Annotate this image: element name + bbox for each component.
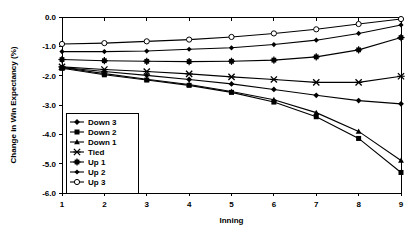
y-tick-label: -5.0 — [42, 160, 56, 169]
win-expectancy-chart: 0.0-1.0-2.0-3.0-4.0-5.0-6.0123456789 Dow… — [0, 0, 417, 240]
x-tick-label: 3 — [145, 200, 150, 209]
x-tick-label: 8 — [356, 200, 361, 209]
y-tick-label: -2.0 — [42, 72, 56, 81]
series-marker — [271, 31, 276, 36]
series-marker — [229, 34, 234, 39]
series-marker — [187, 47, 192, 52]
series-marker — [102, 41, 107, 46]
y-tick-label: -4.0 — [42, 130, 56, 139]
y-tick-label: 0.0 — [45, 13, 57, 22]
series-marker — [313, 92, 319, 98]
chart-svg: 0.0-1.0-2.0-3.0-4.0-5.0-6.0123456789 Dow… — [0, 0, 417, 240]
y-tick-label: -3.0 — [42, 101, 56, 110]
x-tick-label: 5 — [229, 200, 234, 209]
legend-label: Down 1 — [88, 138, 117, 147]
legend-marker — [75, 130, 80, 135]
x-tick-label: 6 — [272, 200, 277, 209]
x-tick-label: 2 — [102, 200, 107, 209]
series-marker — [59, 49, 64, 54]
series-marker — [102, 49, 107, 54]
series-marker — [398, 16, 403, 21]
legend-label: Up 3 — [88, 178, 106, 187]
series-line — [62, 19, 401, 44]
series-marker — [356, 136, 361, 141]
series-marker — [229, 81, 235, 87]
series-marker — [356, 21, 361, 26]
legend-label: Down 3 — [88, 118, 117, 127]
series-marker — [271, 42, 276, 47]
legend-label: Tied — [88, 148, 104, 157]
series-marker — [398, 101, 404, 107]
legend-label: Up 2 — [88, 168, 106, 177]
series-marker — [271, 87, 277, 93]
series-marker — [144, 48, 149, 53]
series-marker — [314, 27, 319, 32]
series-marker — [187, 37, 192, 42]
series-down-3 — [59, 65, 404, 107]
x-tick-label: 9 — [399, 200, 404, 209]
y-tick-label: -1.0 — [42, 42, 56, 51]
series-marker — [59, 41, 64, 46]
y-axis-title: Change in Win Expectancy (%) — [9, 46, 18, 163]
y-tick-label: -6.0 — [42, 189, 56, 198]
x-tick-label: 1 — [60, 200, 65, 209]
series-marker — [356, 31, 361, 36]
x-axis-title: Inning — [220, 216, 244, 225]
x-tick-label: 7 — [314, 200, 319, 209]
series-marker — [398, 22, 403, 27]
legend-marker — [74, 179, 79, 184]
series-marker — [229, 45, 234, 50]
series-marker — [398, 157, 404, 162]
chart-legend[interactable]: Down 3Down 2Down 1TiedUp 1Up 2Up 3 — [66, 113, 138, 193]
series-marker — [144, 39, 149, 44]
legend-label: Up 1 — [88, 158, 106, 167]
series-marker — [399, 170, 404, 175]
series-marker — [314, 38, 319, 43]
series-marker — [314, 114, 319, 119]
legend-label: Down 2 — [88, 128, 117, 137]
x-tick-label: 4 — [187, 200, 192, 209]
series-marker — [356, 98, 362, 104]
